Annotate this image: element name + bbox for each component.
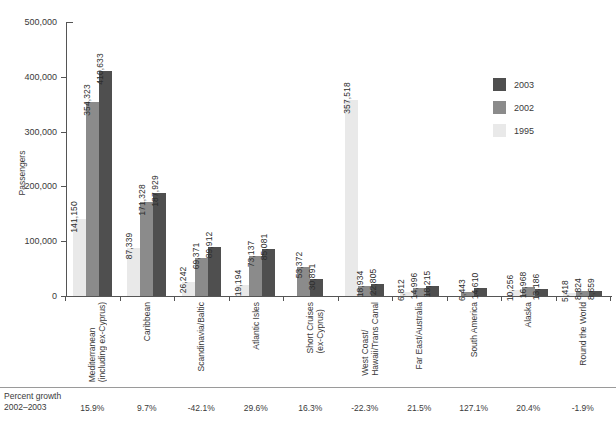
bar-value-label: 89,912	[204, 231, 214, 258]
legend-swatch	[493, 78, 506, 91]
bar: 14,610	[474, 288, 487, 296]
bar-value-label: 87,339	[124, 233, 134, 260]
legend-item[interactable]: 2002	[493, 96, 534, 119]
bar-value-label: 141,150	[69, 201, 79, 232]
bar-group-bars: 53,37230,891	[297, 22, 323, 296]
bar: 357,518	[345, 100, 358, 296]
x-axis-tick	[229, 296, 230, 301]
percent-growth-value: 127.1%	[459, 403, 488, 413]
bar: 19,194	[236, 285, 249, 296]
bar-value-label: 30,891	[307, 264, 317, 291]
bar-fill	[99, 71, 112, 296]
bar-group-bars: 6,44314,610	[461, 22, 487, 296]
x-axis-tick	[65, 296, 66, 301]
y-axis-tick	[61, 186, 67, 187]
bar-group-bars: 19,19473,13785,081	[236, 22, 275, 296]
x-axis-category-label: West Coast/ Hawaii/Trans Canal	[360, 302, 380, 376]
percent-growth-value: 15.9%	[80, 403, 104, 413]
bar-value-label: 8,824	[573, 278, 583, 300]
y-axis-tick	[61, 77, 67, 78]
x-axis-category-label: Scandinavia/Baltic	[196, 302, 206, 371]
bar-value-label: 13,186	[531, 273, 541, 300]
x-axis-tick	[392, 296, 393, 301]
y-axis-tick	[61, 132, 67, 133]
bar-value-label: 8,659	[586, 278, 596, 300]
legend-swatch	[493, 101, 506, 114]
legend-label: 2003	[514, 80, 534, 90]
bar-value-label: 73,137	[246, 241, 256, 268]
percent-growth-value: 20.4%	[516, 403, 540, 413]
bar: 89,912	[208, 247, 221, 296]
bar-group: 357,51818,93422,805	[345, 22, 384, 296]
y-axis-tick-label: 0	[52, 291, 57, 301]
bar: 26,242	[182, 282, 195, 296]
x-axis-category-label: Alaska	[523, 302, 533, 328]
bar-group: 53,37230,891	[297, 22, 323, 296]
bar-value-label: 85,081	[259, 234, 269, 261]
bar-group-bars: 357,51818,93422,805	[345, 22, 384, 296]
bar: 18,215	[426, 286, 439, 296]
bar: 410,633	[99, 71, 112, 296]
bar-value-label: 14,610	[470, 273, 480, 300]
bar-fill	[86, 102, 99, 296]
x-axis-category-label: Far East/Australia	[414, 302, 424, 370]
bar-value-label: 354,323	[82, 84, 92, 115]
legend: 200320021995	[493, 73, 534, 142]
bar-value-label: 19,194	[233, 270, 243, 297]
bar: 8,659	[589, 291, 602, 296]
x-axis-tick	[283, 296, 284, 301]
x-axis-tick	[174, 296, 175, 301]
bar-value-label: 5,418	[560, 280, 570, 302]
legend-label: 1995	[514, 126, 534, 136]
bar-group: 6,44314,610	[461, 22, 487, 296]
bar: 13,186	[535, 289, 548, 296]
bar: 87,339	[127, 248, 140, 296]
bar-group-bars: 10,25616,96813,186	[509, 22, 548, 296]
bar-value-label: 6,443	[457, 280, 467, 302]
x-axis-tick	[447, 296, 448, 301]
bar-value-label: 14,996	[409, 272, 419, 299]
x-axis-tick	[556, 296, 557, 301]
bar-group: 141,150354,323410,633	[73, 22, 112, 296]
x-axis-category-label: Mediterranean (including ex-Cyprus)	[87, 302, 107, 382]
plot-area: 141,150354,323410,63387,339171,328187,92…	[67, 22, 612, 296]
percent-growth-value: 29.6%	[244, 403, 268, 413]
bar: 22,805	[371, 284, 384, 296]
legend-item[interactable]: 1995	[493, 119, 534, 142]
bar-value-label: 69,371	[191, 243, 201, 270]
x-axis-category-label: Short Cruises (ex-Cyprus)	[305, 302, 325, 354]
y-axis-tick	[61, 296, 67, 297]
y-axis-tick-label: 200,000	[24, 181, 57, 191]
bar-group: 5,4188,8248,659	[563, 22, 602, 296]
percent-growth-value: -1.9%	[572, 403, 594, 413]
bar-value-label: 10,256	[505, 275, 515, 302]
bar-group: 10,25616,96813,186	[509, 22, 548, 296]
percent-growth-value: -22.3%	[351, 403, 378, 413]
bar-group-bars: 6,81214,99618,215	[400, 22, 439, 296]
bar: 354,323	[86, 102, 99, 296]
x-axis-category-label: South America	[469, 302, 479, 357]
x-axis-category-label: Atlantic Isles	[251, 302, 261, 350]
bar-group-bars: 87,339171,328187,929	[127, 22, 166, 296]
bar-value-label: 357,518	[342, 82, 352, 113]
y-axis-tick-label: 300,000	[24, 127, 57, 137]
y-axis-tick-label: 500,000	[24, 17, 57, 27]
percent-growth-value: 9.7%	[137, 403, 156, 413]
legend-item[interactable]: 2003	[493, 73, 534, 96]
bar-group: 6,81214,99618,215	[400, 22, 439, 296]
x-axis-category-label: Caribbean	[142, 302, 152, 341]
bar-value-label: 53,372	[294, 251, 304, 278]
x-axis-tick	[338, 296, 339, 301]
bar-group: 87,339171,328187,929	[127, 22, 166, 296]
y-axis-tick-label: 400,000	[24, 72, 57, 82]
x-axis-tick	[501, 296, 502, 301]
percent-growth-title: Percent growth 2002–2003	[4, 391, 61, 412]
bar-group: 19,19473,13785,081	[236, 22, 275, 296]
legend-label: 2002	[514, 103, 534, 113]
footer-divider	[0, 387, 616, 388]
bar-group-bars: 5,4188,8248,659	[563, 22, 602, 296]
bar-value-label: 16,968	[518, 271, 528, 298]
bar-value-label: 410,633	[95, 53, 105, 84]
bar-fill	[140, 202, 153, 296]
bar: 85,081	[262, 249, 275, 296]
